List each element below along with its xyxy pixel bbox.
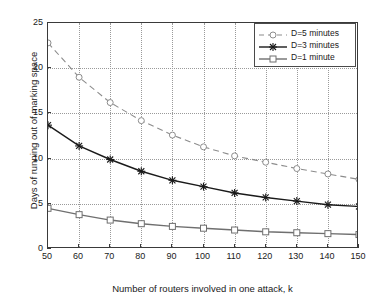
data-point-marker — [270, 56, 276, 62]
chart-figure: 5060708090100110120130140150 0510152025 … — [0, 0, 378, 304]
x-tick-mark — [78, 244, 79, 248]
x-tick-label: 70 — [96, 251, 122, 261]
data-point-marker — [325, 231, 331, 237]
data-point-marker — [262, 193, 270, 201]
data-point-marker — [138, 118, 144, 124]
y-tick-mark — [47, 67, 51, 68]
y-tick-label: 0 — [23, 243, 43, 253]
data-point-marker — [293, 197, 301, 205]
x-tick-label: 150 — [345, 251, 371, 261]
x-tick-mark — [234, 244, 235, 248]
legend-item-label: D=3 minutes — [288, 39, 339, 51]
y-tick-mark — [47, 248, 51, 249]
data-point-marker — [324, 201, 332, 209]
data-point-marker — [169, 132, 175, 138]
y-tick-mark — [47, 158, 51, 159]
data-point-marker — [169, 223, 175, 229]
x-tick-label: 130 — [283, 251, 309, 261]
data-point-marker — [232, 227, 238, 233]
y-axis-label: Days of running out of marking space — [28, 18, 39, 244]
legend-item-label: D=1 minute — [288, 51, 335, 63]
data-point-marker — [269, 43, 277, 51]
data-point-marker — [356, 176, 358, 182]
x-tick-label: 110 — [221, 251, 247, 261]
data-point-marker — [201, 225, 207, 231]
data-point-marker — [48, 205, 51, 211]
legend-item-label: D=5 minutes — [288, 27, 339, 39]
legend-sample-icon — [258, 51, 288, 63]
data-point-marker — [355, 203, 358, 211]
x-tick-mark — [109, 244, 110, 248]
data-point-marker — [263, 229, 269, 235]
data-point-marker — [325, 171, 331, 177]
x-tick-label: 80 — [127, 251, 153, 261]
legend: D=5 minutesD=3 minutesD=1 minute — [254, 23, 356, 67]
data-point-marker — [48, 40, 51, 46]
x-tick-mark — [171, 244, 172, 248]
legend-sample-icon — [258, 27, 288, 39]
x-tick-mark — [358, 244, 359, 248]
y-tick-mark — [47, 203, 51, 204]
data-point-marker — [356, 232, 358, 238]
data-point-marker — [270, 32, 276, 38]
data-point-marker — [232, 153, 238, 159]
x-tick-label: 120 — [252, 251, 278, 261]
y-tick-mark — [47, 112, 51, 113]
data-point-marker — [107, 217, 113, 223]
series-line — [48, 125, 358, 206]
x-tick-label: 60 — [65, 251, 91, 261]
data-point-marker — [107, 100, 113, 106]
data-point-marker — [76, 212, 82, 218]
data-point-marker — [106, 156, 114, 164]
data-point-marker — [138, 221, 144, 227]
data-point-marker — [200, 183, 208, 191]
x-tick-mark — [327, 244, 328, 248]
data-point-marker — [263, 159, 269, 165]
data-point-marker — [201, 144, 207, 150]
x-tick-mark — [140, 244, 141, 248]
data-point-marker — [231, 189, 239, 197]
data-point-marker — [294, 230, 300, 236]
x-tick-mark — [296, 244, 297, 248]
x-tick-label: 140 — [314, 251, 340, 261]
legend-sample-icon — [258, 39, 288, 51]
x-tick-label: 90 — [158, 251, 184, 261]
data-point-marker — [168, 176, 176, 184]
y-tick-mark — [47, 22, 51, 23]
legend-item: D=5 minutes — [258, 27, 351, 39]
x-axis-label: Number of routers involved in one attack… — [47, 283, 358, 294]
x-tick-mark — [265, 244, 266, 248]
x-tick-mark — [203, 244, 204, 248]
data-point-marker — [137, 167, 145, 175]
legend-item: D=3 minutes — [258, 39, 351, 51]
x-tick-label: 100 — [190, 251, 216, 261]
data-point-marker — [294, 166, 300, 172]
data-point-marker — [75, 142, 83, 150]
data-point-marker — [76, 74, 82, 80]
legend-item: D=1 minute — [258, 51, 351, 63]
